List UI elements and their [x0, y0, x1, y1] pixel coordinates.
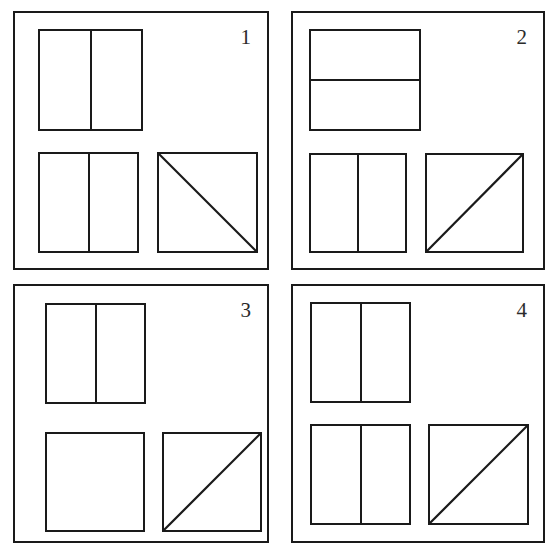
panel-1-bottom-right-square: [157, 152, 258, 253]
panel-3-top-rectangle-vertical-divider: [95, 305, 97, 402]
panel-4-diagonal-bottom-left-to-top-right: [430, 426, 527, 523]
panel-2-bottom-left-square: [309, 153, 407, 253]
panel-4-top-rectangle: [310, 302, 411, 403]
panel-4-bottom-left-square: [310, 424, 411, 525]
panel-4[interactable]: 4: [291, 284, 545, 543]
panel-1-label: 1: [241, 27, 252, 48]
panel-1[interactable]: 1: [13, 11, 269, 270]
panel-4-label: 4: [517, 300, 528, 321]
panel-1-top-rectangle-vertical-divider: [90, 31, 92, 129]
panel-1-top-rectangle: [38, 29, 143, 131]
panel-4-bottom-left-vertical-divider: [360, 426, 362, 523]
panel-2-top-rectangle-horizontal-divider: [311, 79, 419, 81]
panel-3-diagonal-bottom-left-to-top-right: [164, 434, 260, 530]
panel-2-top-rectangle: [309, 29, 421, 131]
panel-4-bottom-right-square: [428, 424, 529, 525]
panel-1-diagonal-top-left-to-bottom-right: [159, 154, 256, 251]
panel-2[interactable]: 2: [291, 11, 545, 270]
figure-sheet: 1 2 3: [0, 0, 557, 557]
panel-1-bottom-left-vertical-divider: [88, 154, 90, 251]
panel-3-label: 3: [241, 300, 252, 321]
panel-3-bottom-left-square: [45, 432, 145, 532]
panel-2-label: 2: [517, 27, 528, 48]
panel-2-diagonal-bottom-left-to-top-right: [427, 155, 522, 251]
panel-1-bottom-left-square: [38, 152, 139, 253]
panel-2-bottom-right-square: [425, 153, 524, 253]
panel-3[interactable]: 3: [13, 284, 269, 543]
panel-3-bottom-right-square: [162, 432, 262, 532]
panel-3-top-rectangle: [45, 303, 146, 404]
panel-4-top-rectangle-vertical-divider: [360, 304, 362, 401]
panel-2-bottom-left-vertical-divider: [357, 155, 359, 251]
